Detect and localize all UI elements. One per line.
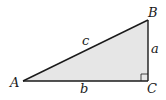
- vertex-label-c: C: [147, 81, 157, 96]
- side-label-c: c: [82, 33, 90, 48]
- vertex-label-a: A: [9, 75, 19, 90]
- side-label-b: b: [80, 81, 88, 96]
- right-triangle-diagram: A B C c a b: [0, 0, 166, 100]
- side-label-a: a: [151, 41, 159, 56]
- vertex-label-b: B: [147, 5, 158, 20]
